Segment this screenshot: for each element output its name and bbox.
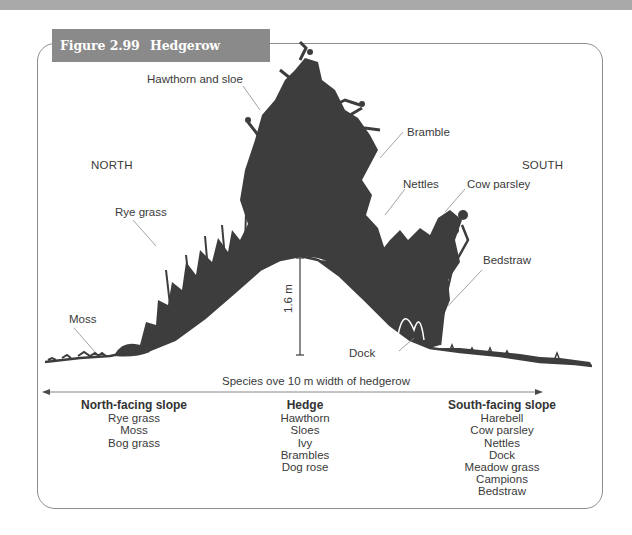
label-nettles: Nettles (403, 178, 439, 190)
width-caption: Species ove 10 m width of hedgerow (0, 375, 632, 387)
species-item: Brambles (260, 449, 350, 461)
label-moss: Moss (69, 313, 96, 325)
label-bramble: Bramble (407, 126, 450, 138)
species-item: Hawthorn (260, 412, 350, 424)
column-heading: South-facing slope (432, 399, 572, 411)
species-item: Nettles (432, 437, 572, 449)
arrow-left-icon (42, 389, 50, 395)
species-item: Bog grass (64, 437, 204, 449)
south-label: SOUTH (522, 159, 563, 171)
arrow-right-icon (535, 389, 543, 395)
label-rye-grass: Rye grass (115, 206, 167, 218)
column-hedge: Hedge Hawthorn Sloes Ivy Brambles Dog ro… (260, 399, 350, 473)
column-heading: North-facing slope (64, 399, 204, 411)
species-item: Meadow grass (432, 461, 572, 473)
label-hawthorn-sloe: Hawthorn and sloe (147, 73, 243, 85)
species-item: Moss (64, 424, 204, 436)
species-item: Rye grass (64, 412, 204, 424)
species-item: Harebell (432, 412, 572, 424)
column-south-facing-slope: South-facing slope Harebell Cow parsley … (432, 399, 572, 498)
species-item: Sloes (260, 424, 350, 436)
species-item: Campions (432, 473, 572, 485)
column-north-facing-slope: North-facing slope Rye grass Moss Bog gr… (64, 399, 204, 449)
species-item: Ivy (260, 437, 350, 449)
north-label: NORTH (91, 159, 133, 171)
species-item: Bedstraw (432, 485, 572, 497)
label-dock: Dock (349, 347, 375, 359)
label-cow-parsley: Cow parsley (467, 178, 530, 190)
species-item: Dog rose (260, 461, 350, 473)
hedge-canopy-shape (240, 58, 385, 268)
height-marker-label: 1.6 m (282, 284, 294, 313)
label-bedstraw: Bedstraw (483, 254, 531, 266)
species-item: Cow parsley (432, 424, 572, 436)
species-item: Dock (432, 449, 572, 461)
column-heading: Hedge (260, 399, 350, 411)
